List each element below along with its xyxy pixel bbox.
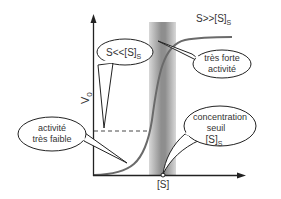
svg-text:très faible: très faible (32, 134, 71, 144)
callout-very-weak-activity: activité très faible (18, 117, 127, 163)
x-axis-arrow-icon (237, 173, 246, 179)
sigmoid-activity-diagram: V0 [S] S<<[S]S S>>[S]S très forte activi… (0, 0, 281, 199)
x-axis-tick-label: [S] (157, 179, 169, 190)
callout-threshold-concentration: concentration seuil [S]S (163, 106, 256, 174)
callout-low-substrate: S<<[S]S (97, 39, 153, 128)
svg-text:seuil: seuil (207, 123, 226, 133)
svg-text:très forte: très forte (204, 53, 240, 63)
svg-text:activité: activité (208, 64, 236, 74)
y-axis-label: V0 (79, 92, 94, 104)
label-high-substrate: S>>[S]S (196, 13, 232, 26)
svg-text:activité: activité (38, 123, 66, 133)
svg-text:V0: V0 (79, 92, 94, 104)
svg-text:concentration: concentration (193, 112, 247, 122)
y-axis-arrow-icon (91, 14, 97, 23)
